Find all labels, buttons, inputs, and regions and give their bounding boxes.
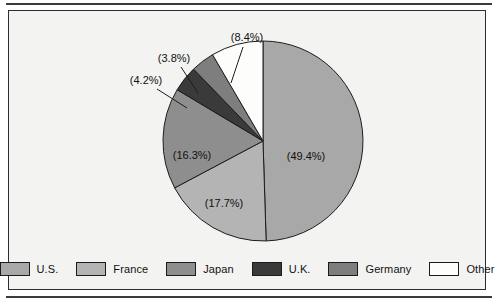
legend-item-japan[interactable]: Japan: [166, 262, 233, 276]
legend-item-germany[interactable]: Germany: [328, 262, 411, 276]
callout-label-germany: (3.8%): [158, 52, 190, 64]
legend-label-germany: Germany: [365, 263, 411, 275]
slice-label-us: (49.4%): [287, 150, 326, 162]
legend-swatch-uk: [252, 262, 282, 276]
legend-item-uk[interactable]: U.K.: [252, 262, 311, 276]
top-rule: [6, 3, 492, 5]
legend-label-us: U.S.: [37, 263, 59, 275]
callout-label-uk: (4.2%): [130, 74, 162, 86]
slice-label-france: (17.7%): [205, 197, 244, 209]
bottom-rule: [6, 296, 492, 298]
legend-label-uk: U.K.: [289, 263, 311, 275]
legend-swatch-germany: [328, 262, 358, 276]
callout-label-other: (8.4%): [231, 31, 263, 43]
legend-label-france: France: [113, 263, 148, 275]
legend-swatch-us: [0, 262, 30, 276]
pie-slice-us[interactable]: [263, 41, 363, 241]
legend-item-us[interactable]: U.S.: [0, 262, 58, 276]
chart-legend: U.S. France Japan U.K. Germany Other: [9, 249, 485, 289]
legend-label-other: Other: [466, 263, 494, 275]
chart-panel: (49.4%) (17.7%) (16.3%) (8.4%) (3.8%) (4…: [8, 10, 486, 290]
legend-label-japan: Japan: [203, 263, 233, 275]
pie-slices-group: [163, 41, 363, 241]
legend-item-france[interactable]: France: [76, 262, 148, 276]
pie-chart-svg: (49.4%) (17.7%) (16.3%) (8.4%) (3.8%) (4…: [9, 11, 485, 249]
legend-swatch-japan: [166, 262, 196, 276]
legend-item-other[interactable]: Other: [429, 262, 494, 276]
legend-swatch-france: [76, 262, 106, 276]
legend-swatch-other: [429, 262, 459, 276]
figure: (49.4%) (17.7%) (16.3%) (8.4%) (3.8%) (4…: [0, 0, 498, 307]
slice-label-japan: (16.3%): [173, 149, 212, 161]
pie-chart-plot-area: (49.4%) (17.7%) (16.3%) (8.4%) (3.8%) (4…: [9, 11, 485, 249]
